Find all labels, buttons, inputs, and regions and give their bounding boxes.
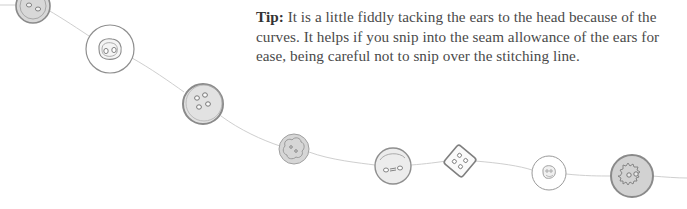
page: Tip: It is a little fiddly tacking the e…	[0, 0, 687, 209]
tip-label: Tip:	[256, 8, 284, 25]
button-icon	[375, 148, 411, 184]
tip-text: It is a little fiddly tacking the ears t…	[256, 8, 659, 64]
tip-paragraph: Tip: It is a little fiddly tacking the e…	[256, 7, 666, 66]
button-icon	[532, 156, 566, 190]
button-icon	[279, 134, 309, 164]
button-icon	[183, 84, 223, 124]
button-icon	[443, 144, 477, 178]
button-icon	[86, 25, 134, 73]
button-icon	[611, 155, 653, 197]
button-icon	[16, 0, 50, 23]
